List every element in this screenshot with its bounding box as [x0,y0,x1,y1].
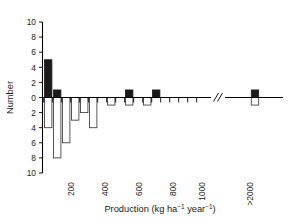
histogram-plot: 10 8 6 4 2 0 2 4 6 8 10 200 400 600 [0,0,289,223]
y-tick-label: 6 [31,47,36,57]
bar-negative [251,98,258,106]
x-tick-label: 400 [100,182,110,196]
x-axis-break-icon [211,93,225,102]
y-tick-label: 4 [31,63,36,73]
x-axis-tick-labels: 200 400 600 800 1000 >2000 [66,182,255,206]
bar-positive [126,90,133,98]
bar-positive [54,90,61,98]
y-tick-label: 10 [27,168,37,178]
x-axis-title-mid: year [185,204,206,214]
bar-negative [108,98,115,106]
y-tick-label: 6 [31,138,36,148]
bar-negative [63,98,70,143]
bars-layer [45,60,259,158]
y-tick-label: 2 [31,108,36,118]
bar-negative [72,98,79,121]
x-tick-label: 600 [134,182,144,196]
y-tick-label: 2 [31,78,36,88]
x-tick-label: 200 [66,182,76,196]
bar-negative [126,98,133,106]
x-tick-label: >2000 [245,182,255,206]
bar-negative [144,98,151,106]
y-tick-label: 0 [31,93,36,103]
x-axis-title: Production (kg ha−1 year−1) [104,203,215,214]
bar-negative [90,98,97,128]
bar-negative [81,98,88,113]
y-tick-label: 4 [31,123,36,133]
y-axis-title: Number [5,81,15,114]
y-tick-label: 8 [31,32,36,42]
bar-negative [45,98,52,128]
x-tick-label: 1000 [197,182,207,201]
bar-positive [251,90,258,98]
bar-negative [54,98,61,158]
bar-positive [45,60,52,98]
y-tick-label: 10 [27,17,37,27]
y-axis-tick-labels: 10 8 6 4 2 0 2 4 6 8 10 [27,17,37,178]
x-tick-label: 800 [168,182,178,196]
x-axis-title-prefix: Production (kg ha [104,204,178,214]
y-tick-label: 8 [31,153,36,163]
chart-figure: 10 8 6 4 2 0 2 4 6 8 10 200 400 600 [0,0,289,223]
bar-positive [153,90,160,98]
x-axis-title-suffix: ) [213,204,216,214]
